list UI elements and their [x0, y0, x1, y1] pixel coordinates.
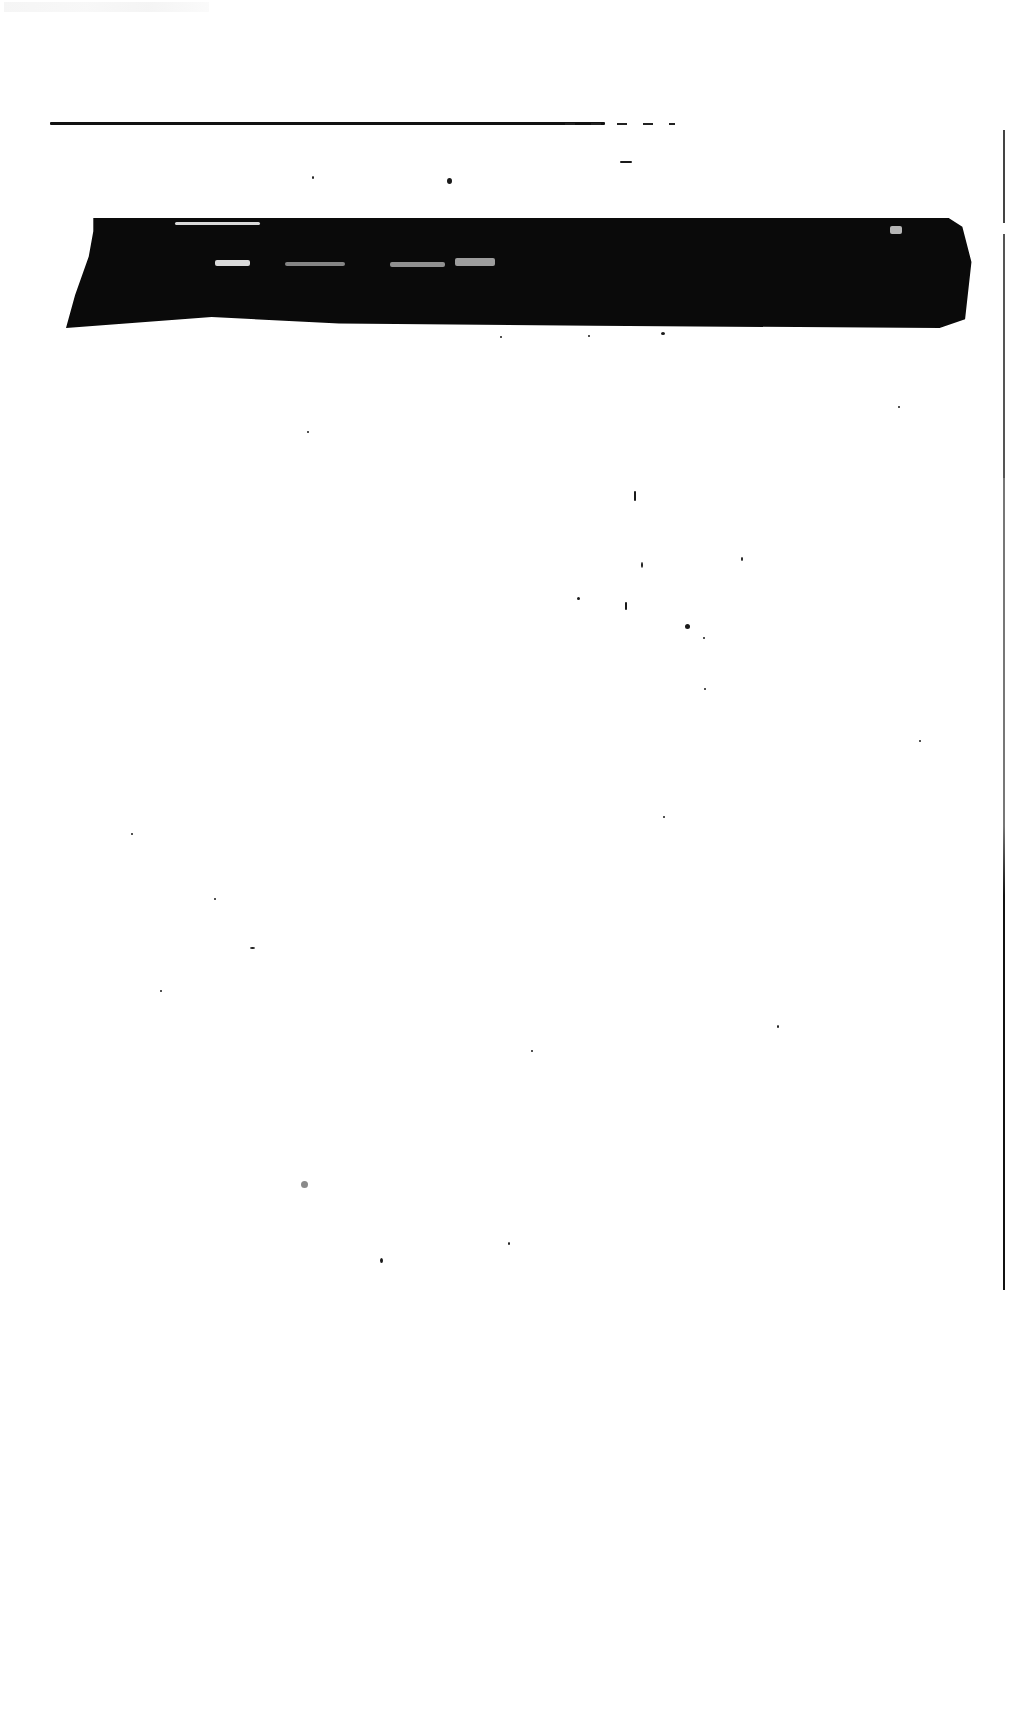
scan-noise [704, 688, 706, 690]
scan-noise [663, 816, 665, 818]
redacted-black-band [66, 218, 976, 328]
scan-noise [307, 431, 309, 433]
scan-noise [214, 898, 216, 900]
scan-noise [531, 1050, 533, 1052]
scan-noise [577, 597, 580, 600]
right-margin-line [1003, 130, 1005, 1290]
scan-noise [641, 562, 643, 568]
scan-noise [898, 406, 900, 408]
horizontal-rule [50, 122, 605, 125]
scan-noise [625, 602, 627, 610]
scan-noise [312, 176, 314, 179]
scan-noise [661, 332, 665, 335]
scan-noise [447, 178, 452, 184]
scan-noise [131, 833, 133, 835]
band-scan-artifact [455, 258, 495, 266]
band-scan-artifact [890, 226, 902, 234]
horizontal-rule-broken-end [565, 123, 675, 125]
faint-header-text [4, 2, 209, 12]
band-scan-artifact [285, 262, 345, 266]
scan-noise [777, 1025, 779, 1028]
scan-noise [380, 1258, 383, 1263]
scan-noise [620, 161, 632, 163]
scan-noise [160, 990, 162, 992]
scan-noise [634, 491, 636, 501]
scan-noise [500, 336, 502, 338]
scan-noise [741, 557, 743, 561]
scan-noise [508, 1242, 510, 1245]
scan-noise [685, 624, 690, 629]
band-scan-artifact [390, 262, 445, 267]
scan-noise [301, 1181, 308, 1188]
scan-noise [703, 637, 705, 639]
scan-noise [588, 335, 590, 337]
scan-noise [919, 740, 921, 742]
band-scan-artifact [215, 260, 250, 266]
document-page [0, 0, 1031, 1713]
scan-noise [250, 947, 255, 949]
band-scan-artifact [175, 222, 260, 225]
